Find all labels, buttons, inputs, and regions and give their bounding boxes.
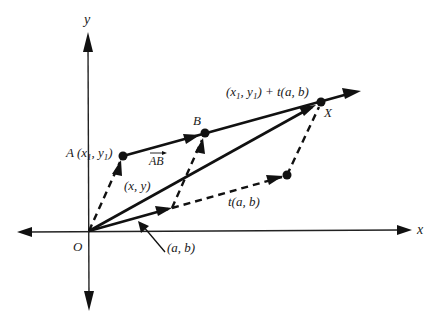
y-axis [88,45,89,298]
arrow-ab-icon [155,206,172,216]
arrow-AB-icon [183,134,200,144]
solid-vectors [89,94,348,231]
point-tab [283,171,292,180]
vector-tab [172,177,282,208]
origin-label: O [73,239,83,254]
line-through-A-B [123,94,348,156]
xy-label: (x, y) [124,178,151,193]
line-equation-label: (x1, y1) + t(a, b) [226,84,309,101]
line-end-arrow-icon [342,88,361,99]
x-axis [28,230,400,232]
arrow-tab-icon [266,175,283,185]
vector-AB-overarrow-icon [162,151,167,155]
x-axis-left-arrow-icon [17,227,32,237]
arrow-B-icon [195,138,205,154]
arrow-OA-icon [112,160,122,176]
vector-AB-label: AB [148,154,164,168]
x-axis-label: x [416,222,424,237]
point-X-label: X [323,105,333,120]
y-axis-label: y [82,12,91,27]
y-axis-up-arrow-icon [83,32,93,52]
vector-ab [89,209,168,231]
point-B-label: B [193,113,201,128]
axes [17,32,412,311]
ab-pointer-line [143,226,165,252]
vector-line-diagram: y x O A (x1, y1) B X AB (x, y) (a, b) t(… [0,0,439,328]
x-axis-right-arrow-icon [397,225,412,235]
y-axis-down-arrow-icon [84,291,94,311]
ab-label: (a, b) [167,240,195,255]
point-A [119,152,128,161]
tab-label: t(a, b) [228,194,260,209]
point-B [201,129,210,138]
